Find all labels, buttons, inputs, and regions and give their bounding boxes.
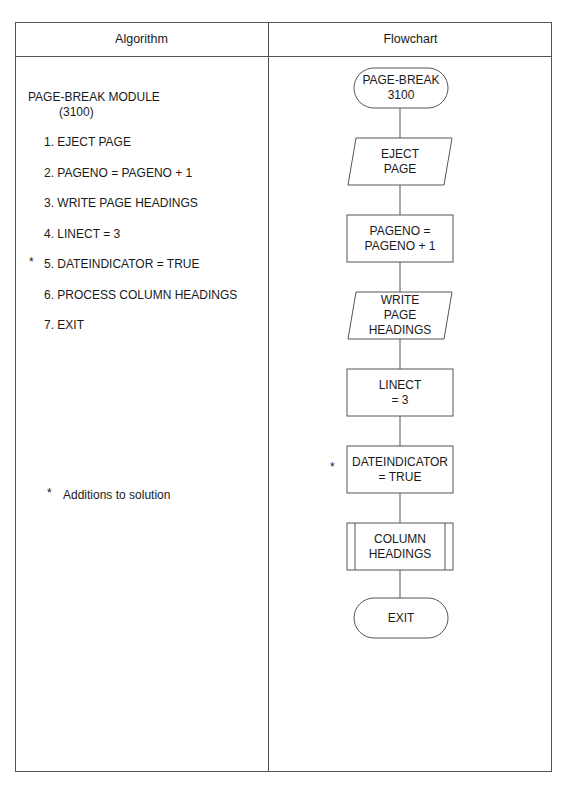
terminal-start: PAGE-BREAK 3100 [354,68,448,108]
process-linect: LINECT = 3 [347,369,453,416]
node-label: 3100 [388,88,415,103]
node-label: HEADINGS [369,547,432,562]
node-label: PAGENO = [370,224,431,239]
node-label: PAGE [384,162,416,177]
node-label: = 3 [391,393,408,408]
flowchart-addition-marker: * [330,460,335,474]
node-label: PAGE-BREAK [362,73,439,88]
predefined-column-headings: COLUMN HEADINGS [347,523,453,570]
node-label: EXIT [388,611,415,626]
node-label: PAGE [384,308,416,323]
node-label: PAGENO + 1 [365,239,436,254]
process-dateindicator: DATEINDICATOR = TRUE [347,446,453,493]
node-label: = TRUE [379,470,422,485]
node-label: COLUMN [374,532,426,547]
flowchart-diagram [0,0,565,793]
terminal-exit: EXIT [354,598,448,638]
io-write-headings: WRITE PAGE HEADINGS [348,292,452,339]
io-eject-page: EJECT PAGE [348,138,452,185]
node-label: HEADINGS [369,323,432,338]
process-pageno: PAGENO = PAGENO + 1 [347,215,453,262]
node-label: LINECT [379,378,422,393]
node-label: DATEINDICATOR [352,455,448,470]
node-label: WRITE [381,293,420,308]
node-label: EJECT [381,147,419,162]
